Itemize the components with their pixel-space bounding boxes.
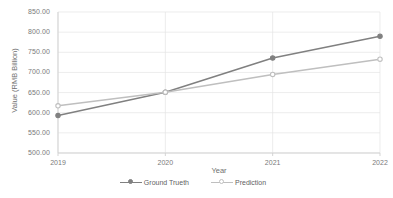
y-axis-tick-label: 850.00 [0, 8, 50, 16]
legend-label-prediction: Prediction [235, 179, 266, 186]
gridlines [58, 12, 380, 153]
y-axis-tick-label: 500.00 [0, 149, 50, 157]
series-lines [56, 34, 382, 118]
y-axis-tick-label: 800.00 [0, 28, 50, 36]
y-axis-tick-label: 550.00 [0, 129, 50, 137]
chart-legend: Ground Trueth Prediction [0, 178, 386, 186]
y-axis-tick-labels: 500.00550.00600.00650.00700.00750.00800.… [0, 0, 54, 198]
y-axis-tick-label: 600.00 [0, 109, 50, 117]
y-axis-tick-label: 700.00 [0, 68, 50, 76]
legend-item-ground-truth[interactable]: Ground Trueth [120, 178, 189, 186]
legend-item-prediction[interactable]: Prediction [211, 178, 266, 186]
x-axis-title: Year [58, 166, 380, 175]
y-axis-tick-label: 650.00 [0, 89, 50, 97]
legend-line-icon-prediction [211, 178, 233, 186]
y-axis-tick-label: 750.00 [0, 48, 50, 56]
legend-label-ground-truth: Ground Trueth [144, 179, 189, 186]
y-axis-title: Value (RMB Billion) [10, 31, 19, 131]
legend-line-icon-ground-truth [120, 178, 142, 186]
